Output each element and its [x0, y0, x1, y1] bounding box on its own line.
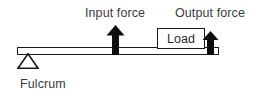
lever-diagram: Input force Output force Fulcrum Load	[0, 0, 263, 96]
input-force-arrow-icon	[106, 25, 125, 55]
load-label: Load	[167, 32, 195, 46]
input-force-label: Input force	[85, 6, 145, 20]
load-box: Load	[157, 28, 205, 49]
fulcrum-label: Fulcrum	[20, 77, 66, 91]
output-force-label: Output force	[175, 6, 245, 20]
output-force-arrow-icon	[202, 31, 219, 55]
fulcrum-triangle-icon	[17, 53, 39, 69]
